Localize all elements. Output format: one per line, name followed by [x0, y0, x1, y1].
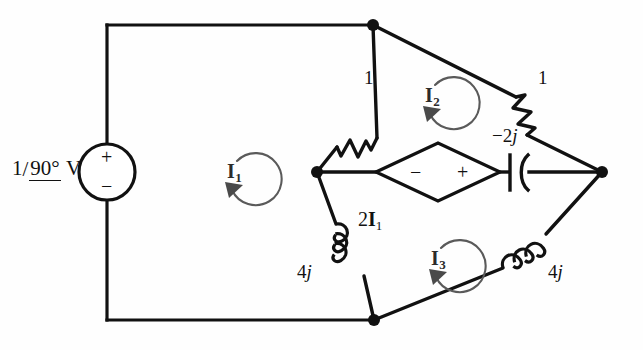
mesh-current-label-I1: I1 — [227, 161, 242, 184]
branch-lower-left-wire-lower — [364, 276, 374, 320]
node-top — [367, 19, 379, 31]
source-minus-sign: − — [101, 175, 112, 198]
dependent-coefficient: 2 — [358, 208, 368, 230]
dependent-source-diamond — [376, 143, 500, 201]
branch-lower-left-wire-upper — [317, 172, 336, 224]
source-unit: V — [66, 156, 81, 180]
inductor-lower-right-label: 4j — [548, 262, 563, 281]
mesh-arrowheads — [225, 106, 447, 285]
branch-lower-right-wire-upper — [546, 172, 602, 234]
branch-upper-right-wire-upper — [373, 25, 516, 97]
dependent-source-minus-sign: − — [410, 161, 421, 184]
source-magnitude: 1 — [12, 156, 23, 180]
inductor-lower-left-label: 4j — [297, 262, 312, 281]
angle-slash: / — [23, 159, 30, 180]
mesh-current-label-I2: I2 — [425, 85, 440, 108]
resistor-upper-left-label: 1 — [364, 68, 374, 87]
capacitor-plate-right — [521, 155, 528, 190]
mesh-current-label-I3: I3 — [431, 248, 446, 271]
source-plus-sign: + — [101, 146, 112, 169]
capacitor-label: −2j — [492, 126, 518, 145]
node-left-middle — [311, 166, 323, 178]
branch-upper-right-wire-lower — [527, 135, 602, 172]
node-right-middle — [596, 166, 608, 178]
inductor-lower-right — [499, 240, 546, 273]
resistor-upper-left-zigzag — [337, 138, 377, 157]
source-angle: 90° — [29, 158, 60, 181]
dependent-current-subscript: 1 — [376, 218, 383, 233]
resistor-upper-right-label: 1 — [538, 68, 548, 87]
dependent-source-plus-sign: + — [457, 161, 468, 184]
dependent-source-label: 2I1 — [358, 209, 382, 232]
circuit-schematic-canvas — [0, 0, 643, 350]
source-value-label: 1/90° V — [12, 158, 81, 181]
inductor-lower-left — [322, 221, 356, 263]
branch-upper-left-wire-upper — [373, 25, 377, 138]
dependent-current-symbol: I — [368, 208, 376, 230]
node-bottom — [368, 314, 380, 326]
circuit-figure: 1/90° V + − 1 1 −2j 4j 4j − + 2I1 I1 I2 … — [0, 0, 643, 350]
